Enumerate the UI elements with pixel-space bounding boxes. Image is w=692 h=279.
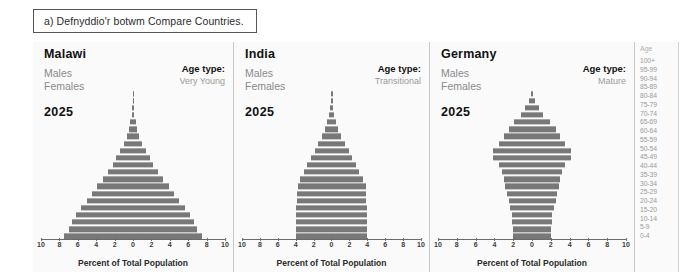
age-type-value: Very Young [179, 75, 225, 87]
bar-male [525, 105, 532, 110]
pyramid-row [41, 211, 225, 218]
bar-female [532, 134, 560, 139]
pyramid-row [41, 219, 225, 226]
age-group-label: 25-29 [640, 189, 677, 196]
pyramid-row [242, 147, 421, 154]
pyramid-row [41, 197, 225, 204]
bar-female [332, 105, 333, 110]
bar-female [332, 155, 353, 160]
bar-female [332, 112, 334, 117]
x-axis-tick-label: 2 [149, 241, 153, 248]
pyramid-row [41, 147, 225, 154]
country-title: India [245, 47, 275, 61]
bar-male [322, 134, 332, 139]
bar-male [298, 184, 332, 189]
bar-female [532, 170, 562, 175]
x-axis-tick-label: 0 [330, 241, 334, 248]
pyramid-row [41, 226, 225, 233]
country-title: Malawi [44, 47, 86, 61]
x-axis-tick-label: 6 [276, 241, 280, 248]
country-panel-india[interactable]: India Males Females 2025 Age type: Trans… [233, 42, 429, 272]
bar-female [133, 155, 150, 160]
bar-female [532, 98, 535, 103]
age-group-label: 40-44 [640, 163, 677, 170]
bar-male [514, 120, 532, 125]
age-group-label: 50-54 [640, 146, 677, 153]
x-axis-tick-label: 4 [365, 241, 369, 248]
legend-males: Males [441, 67, 481, 80]
bar-female [532, 227, 551, 232]
age-type-block: Age type: Mature [583, 63, 626, 87]
age-group-label: 100+ [640, 58, 677, 65]
bar-female [332, 127, 339, 132]
bar-male [304, 170, 332, 175]
country-panel-germany[interactable]: Germany Males Females 2025 Age type: Mat… [429, 42, 634, 272]
pyramid-plot-india [242, 90, 421, 240]
bar-male [507, 191, 532, 196]
bar-female [133, 162, 153, 167]
bar-female [532, 112, 543, 117]
x-axis-tick-label: 10 [622, 241, 630, 248]
bar-female [332, 198, 367, 203]
x-axis: 1086420246810 [41, 239, 225, 254]
age-group-label: 35-39 [640, 172, 677, 179]
age-type-block: Age type: Very Young [179, 63, 225, 87]
age-group-label: 60-64 [640, 128, 677, 135]
bar-male [124, 141, 133, 146]
x-axis-tick-label: 8 [205, 241, 209, 248]
bar-female [332, 170, 360, 175]
bar-female [532, 162, 565, 167]
bar-male [315, 148, 332, 153]
bar-female [532, 127, 556, 132]
age-group-label: 20-24 [640, 198, 677, 205]
x-axis-title: Percent of Total Population [33, 258, 233, 268]
bar-female [532, 141, 565, 146]
pyramid-row [242, 161, 421, 168]
x-axis-tick-label: 0 [131, 241, 135, 248]
x-axis-ticks: 1086420246810 [438, 240, 626, 254]
x-axis-tick-label: 8 [605, 241, 609, 248]
age-group-label: 75-79 [640, 102, 677, 109]
pyramid-row [242, 197, 421, 204]
bar-male [502, 170, 532, 175]
x-axis-tick-label: 0 [530, 241, 534, 248]
bar-male [76, 212, 133, 217]
bar-female [532, 91, 533, 96]
pyramid-rows [242, 90, 421, 240]
pyramid-row [438, 111, 626, 118]
age-group-label: 95-99 [640, 67, 677, 74]
bar-female [332, 148, 349, 153]
bar-male [512, 220, 532, 225]
pyramid-row [242, 176, 421, 183]
country-panel-malawi[interactable]: Malawi Males Females 2025 Age type: Very… [33, 42, 233, 272]
bar-male [307, 162, 331, 167]
pyramid-row [242, 97, 421, 104]
pyramid-row [41, 140, 225, 147]
pyramid-row [41, 183, 225, 190]
bar-female [133, 134, 139, 139]
bar-male [296, 227, 332, 232]
pyramid-row [242, 183, 421, 190]
bar-male [521, 112, 532, 117]
bar-female [532, 120, 550, 125]
bar-male [509, 198, 533, 203]
bar-female [133, 112, 134, 117]
bar-female [532, 205, 554, 210]
x-axis-tick-label: 10 [238, 241, 246, 248]
pyramid-row [438, 211, 626, 218]
x-axis-tick-label: 2 [312, 241, 316, 248]
age-group-label: 45-49 [640, 154, 677, 161]
pyramid-row [41, 161, 225, 168]
x-axis-ticks: 1086420246810 [41, 240, 225, 254]
bar-female [332, 227, 368, 232]
caption-box: a) Defnyddio'r botwm Compare Countries. [33, 9, 257, 33]
bar-female [133, 191, 174, 196]
bar-female [532, 212, 552, 217]
x-axis: 1086420246810 [242, 239, 421, 254]
bar-female [133, 141, 142, 146]
pyramid-row [41, 176, 225, 183]
pyramid-row [438, 147, 626, 154]
bar-female [532, 148, 571, 153]
bar-male [510, 205, 532, 210]
pyramid-row [242, 190, 421, 197]
